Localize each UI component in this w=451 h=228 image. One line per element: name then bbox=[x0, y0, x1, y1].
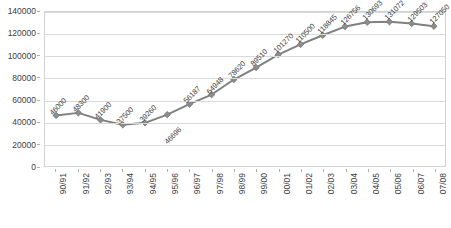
x-tick-mark bbox=[368, 169, 369, 172]
x-tick-label: 01/02 bbox=[305, 173, 314, 194]
y-tick-label: 40000 bbox=[12, 118, 36, 127]
x-tick-label: 07/08 bbox=[439, 173, 448, 194]
y-tick-label: 140000 bbox=[8, 7, 36, 16]
gridline bbox=[45, 34, 445, 35]
y-tick-label: 0 bbox=[31, 163, 36, 172]
x-tick-mark bbox=[256, 169, 257, 172]
x-tick-mark bbox=[323, 169, 324, 172]
y-tick-mark bbox=[37, 100, 40, 101]
x-tick-label: 00/01 bbox=[283, 173, 292, 194]
x-tick-label: 05/06 bbox=[394, 173, 403, 194]
x-tick-label: 03/04 bbox=[350, 173, 359, 194]
line-chart: 020000400006000080000100000120000140000 … bbox=[0, 0, 451, 228]
data-point-marker bbox=[164, 111, 170, 117]
x-tick-label: 04/05 bbox=[372, 173, 381, 194]
x-tick-mark bbox=[346, 169, 347, 172]
gridline bbox=[45, 145, 445, 146]
x-tick-label: 94/95 bbox=[149, 173, 158, 194]
y-tick-mark bbox=[37, 55, 40, 56]
x-tick-mark bbox=[122, 169, 123, 172]
x-tick-mark bbox=[212, 169, 213, 172]
y-tick-mark bbox=[37, 77, 40, 78]
y-tick-label: 60000 bbox=[12, 96, 36, 105]
x-tick-label: 06/07 bbox=[417, 173, 426, 194]
y-tick-label: 120000 bbox=[8, 29, 36, 38]
x-tick-label: 93/94 bbox=[126, 173, 135, 194]
y-tick-mark bbox=[37, 122, 40, 123]
x-tick-mark bbox=[234, 169, 235, 172]
x-axis: 90/9191/9292/9393/9494/9595/9696/9797/98… bbox=[44, 169, 446, 225]
x-tick-label: 90/91 bbox=[59, 173, 68, 194]
y-tick-mark bbox=[37, 11, 40, 12]
x-tick-label: 98/99 bbox=[238, 173, 247, 194]
x-tick-mark bbox=[100, 169, 101, 172]
x-tick-label: 96/97 bbox=[193, 173, 202, 194]
x-tick-mark bbox=[145, 169, 146, 172]
x-tick-label: 92/93 bbox=[104, 173, 113, 194]
x-tick-mark bbox=[167, 169, 168, 172]
x-tick-label: 95/96 bbox=[171, 173, 180, 194]
gridline bbox=[45, 123, 445, 124]
gridline bbox=[45, 78, 445, 79]
x-tick-mark bbox=[78, 169, 79, 172]
x-tick-label: 91/92 bbox=[82, 173, 91, 194]
gridline bbox=[45, 56, 445, 57]
y-tick-label: 20000 bbox=[12, 140, 36, 149]
x-tick-mark bbox=[55, 169, 56, 172]
series-line bbox=[56, 22, 434, 125]
plot-area: 4600048300419003750039260466965618764948… bbox=[44, 11, 446, 167]
y-tick-mark bbox=[37, 167, 40, 168]
x-tick-mark bbox=[413, 169, 414, 172]
x-tick-label: 99/00 bbox=[260, 173, 269, 194]
x-tick-mark bbox=[390, 169, 391, 172]
y-tick-label: 100000 bbox=[8, 51, 36, 60]
y-tick-mark bbox=[37, 144, 40, 145]
x-tick-mark bbox=[279, 169, 280, 172]
x-tick-label: 02/03 bbox=[327, 173, 336, 194]
y-axis: 020000400006000080000100000120000140000 bbox=[0, 11, 40, 167]
x-tick-mark bbox=[301, 169, 302, 172]
y-tick-label: 80000 bbox=[12, 74, 36, 83]
x-tick-label: 97/98 bbox=[216, 173, 225, 194]
x-tick-mark bbox=[435, 169, 436, 172]
series-line-layer bbox=[45, 12, 445, 166]
y-tick-mark bbox=[37, 33, 40, 34]
x-tick-mark bbox=[189, 169, 190, 172]
